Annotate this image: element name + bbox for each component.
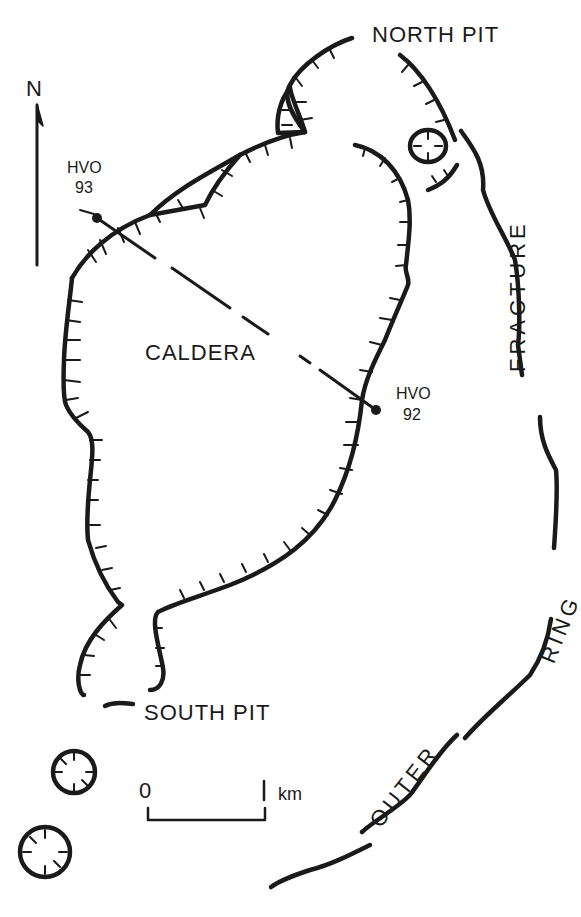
scale-bar [148,781,265,820]
scale-start-label: 0 [139,780,152,802]
north-pit-label: NORTH PIT [372,24,499,46]
scale-unit-label: km [278,785,302,803]
station-hvo92-marker [371,405,381,415]
caldera-map [0,0,581,917]
crater-north-icon [410,130,446,162]
south-pit-label: SOUTH PIT [144,702,270,724]
station-hvo93-number: 93 [75,180,93,196]
fracture-label: FRACTURE [507,220,529,372]
north-arrow-label: N [26,78,43,100]
station-hvo93-marker [92,213,102,223]
rim-hachures [64,50,448,675]
station-hvo93-name: HVO [67,160,102,176]
profile-line [92,213,381,415]
station-hvo92-number: 92 [403,407,421,423]
north-arrow-icon [37,104,43,265]
crater-south-2-icon [20,827,70,877]
caldera-label: CALDERA [145,342,256,364]
crater-south-1-icon [53,751,95,793]
caldera-rim [64,38,457,706]
station-hvo92-name: HVO [396,386,431,402]
